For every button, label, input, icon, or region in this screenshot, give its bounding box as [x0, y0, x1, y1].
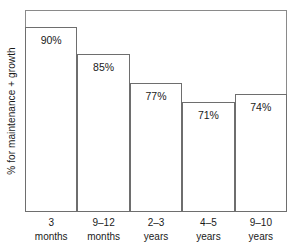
bar-9-10-years: 74% [235, 94, 287, 212]
x-tick-9-12-months: 9–12 months [77, 216, 129, 248]
bar-9-12-months: 85% [77, 54, 129, 212]
x-tick-line1: 9–10 [235, 216, 287, 230]
x-tick-line2: years [182, 230, 234, 244]
x-tick-2-3-years: 2–3 years [130, 216, 182, 248]
bar-value-label: 71% [183, 109, 233, 121]
bar-chart-figure: % for maintenance + growth 90% 85% 77% 7… [0, 0, 298, 249]
x-tick-4-5-years: 4–5 years [182, 216, 234, 248]
bar-4-5-years: 71% [182, 102, 234, 212]
x-axis-labels: 3 months 9–12 months 2–3 years 4–5 years… [25, 216, 287, 248]
x-tick-line1: 3 [25, 216, 77, 230]
bar-value-label: 85% [78, 61, 128, 73]
x-tick-line2: months [77, 230, 129, 244]
x-tick-line2: months [25, 230, 77, 244]
x-tick-3-months: 3 months [25, 216, 77, 248]
x-tick-line1: 4–5 [182, 216, 234, 230]
bar-3-months: 90% [25, 27, 77, 212]
bar-2-3-years: 77% [130, 83, 182, 212]
x-tick-line1: 9–12 [77, 216, 129, 230]
bars-layer: 90% 85% 77% 71% 74% [25, 10, 287, 212]
x-tick-line2: years [130, 230, 182, 244]
bar-value-label: 74% [236, 101, 286, 113]
bar-value-label: 90% [26, 34, 76, 46]
x-tick-9-10-years: 9–10 years [235, 216, 287, 248]
x-tick-line1: 2–3 [130, 216, 182, 230]
bar-value-label: 77% [131, 90, 181, 102]
x-tick-line2: years [235, 230, 287, 244]
y-axis-title: % for maintenance + growth [4, 10, 20, 212]
